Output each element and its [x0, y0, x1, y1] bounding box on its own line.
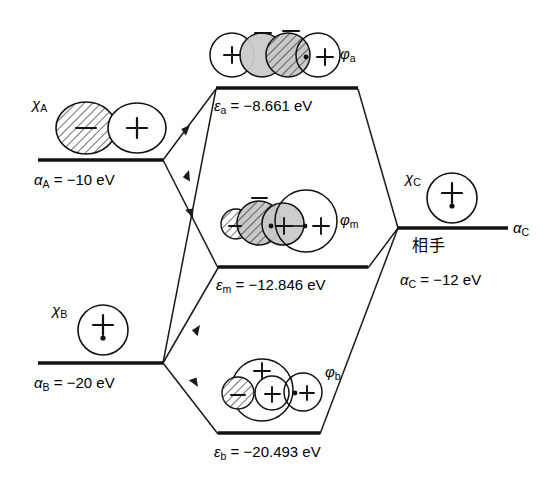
phi-m-symbol: φm [340, 212, 359, 227]
phi-b-orbital-picture [222, 359, 322, 421]
chi-c-symbol: χC [405, 170, 421, 185]
alpha-a-energy-label: αA = −10 eV [34, 172, 115, 187]
chi-b-symbol: χB [52, 302, 67, 317]
line-epsA-to-alphaC [358, 89, 398, 228]
eps-a-energy-label: εa = −8.661 eV [214, 98, 312, 113]
alpha-c-energy-label: αC = −12 eV [400, 272, 481, 287]
chi-a-symbol: χA [32, 96, 47, 111]
alpha-b-energy-label: αB = −20 eV [34, 375, 115, 390]
phi-a-orbital-picture [210, 31, 340, 77]
arrowhead-down-b-b [189, 375, 202, 388]
phi-m-orbital-picture [221, 190, 337, 252]
line-alphaB-to-epsM [163, 268, 218, 363]
mo-energy-diagram: χA αA = −10 eV χB αB = −20 eV φa εa = −8… [0, 0, 554, 485]
line-alphaA-to-epsA [163, 89, 216, 160]
arrowhead-up-b-m [191, 323, 203, 336]
chi-c-orbital-picture [427, 173, 477, 223]
eps-b-energy-label: εb = −20.493 eV [214, 444, 321, 459]
line-epsM-to-alphaC [368, 228, 398, 268]
eps-m-energy-label: εm = −12.846 eV [216, 277, 326, 292]
line-epsB-to-alphaC [320, 228, 398, 434]
alpha-c-level-tag: αC [513, 220, 529, 235]
line-alphaB-to-epsB [163, 363, 218, 434]
partner-annotation: 相手 [412, 238, 446, 254]
chi-b-orbital-picture [78, 305, 128, 355]
chi-a-orbital-picture [56, 102, 166, 154]
phi-b-symbol: φb [325, 364, 341, 379]
line-alphaB-to-epsA [163, 89, 216, 363]
arrowhead-up-a [180, 122, 193, 135]
arrowhead-up-b-a [182, 169, 192, 181]
diagram-canvas [0, 0, 554, 485]
phi-a-symbol: φa [340, 46, 356, 61]
